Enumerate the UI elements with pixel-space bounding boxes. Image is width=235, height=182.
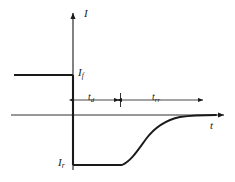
diode-reverse-recovery-figure: I t If Ir td trr <box>0 0 235 182</box>
waveform-canvas <box>0 0 235 182</box>
reverse-current-label: Ir <box>58 157 65 168</box>
current-axis-label: I <box>84 8 88 19</box>
delay-time-label: td <box>88 92 94 102</box>
reverse-recovery-time-label-subscript: rr <box>155 96 160 103</box>
reverse-current-label-subscript: r <box>62 161 65 170</box>
delay-time-label-subscript: d <box>91 96 94 103</box>
forward-current-label-subscript: f <box>82 71 84 80</box>
reverse-recovery-time-label: trr <box>152 92 160 102</box>
time-axis-label: t <box>210 120 213 131</box>
recovery-curve-segment <box>122 115 216 165</box>
forward-current-label: If <box>78 67 84 78</box>
